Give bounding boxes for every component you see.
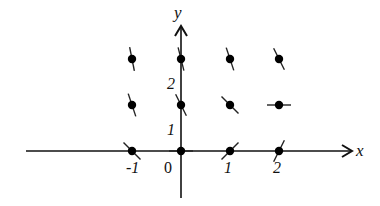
x-tick-label: 1 bbox=[224, 159, 232, 176]
grid-point bbox=[177, 101, 185, 109]
slope-mark bbox=[128, 94, 136, 117]
grid-point bbox=[177, 55, 185, 63]
axes: x y bbox=[26, 3, 364, 198]
grid-point bbox=[275, 101, 283, 109]
grid-point bbox=[226, 101, 234, 109]
slope-mark bbox=[226, 48, 234, 71]
grid-point bbox=[128, 101, 136, 109]
slope-mark bbox=[128, 47, 136, 71]
y-tick-label: 1 bbox=[167, 121, 175, 138]
grid-point bbox=[275, 55, 283, 63]
x-axis-label: x bbox=[355, 141, 364, 160]
slope-mark bbox=[267, 101, 291, 109]
slope-mark bbox=[222, 97, 239, 114]
x-tick-label: -1 bbox=[126, 159, 139, 176]
grid-point bbox=[226, 55, 234, 63]
grid-point bbox=[226, 147, 234, 155]
y-axis-label: y bbox=[172, 3, 182, 22]
grid-point bbox=[275, 147, 283, 155]
y-tick-label: 2 bbox=[167, 75, 175, 92]
slope-mark bbox=[274, 48, 285, 69]
slope-mark bbox=[169, 147, 193, 155]
tick-labels: -101212 bbox=[126, 75, 281, 176]
slope-field-diagram: x y -101212 bbox=[0, 0, 380, 206]
grid-point bbox=[128, 147, 136, 155]
slope-marks bbox=[124, 47, 291, 162]
x-tick-label: 0 bbox=[164, 159, 172, 176]
grid-point bbox=[128, 55, 136, 63]
grid-point bbox=[177, 147, 185, 155]
